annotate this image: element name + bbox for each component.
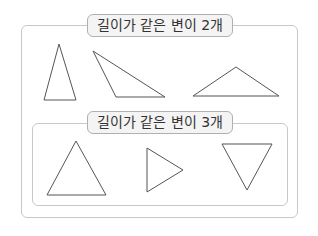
equilateral-triangle-right [147,148,183,192]
obtuse-triangle [93,51,165,97]
triangles-canvas [0,0,318,236]
wide-isosceles-triangle [193,67,279,96]
equilateral-triangle-up [47,141,106,195]
tall-isosceles-triangle [44,44,76,100]
equilateral-triangle-down [222,144,272,190]
